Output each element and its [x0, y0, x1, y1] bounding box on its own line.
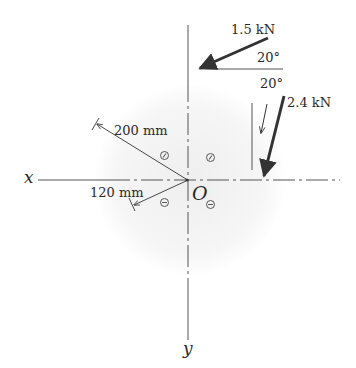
- force-2-magnitude-label: 2.4 kN: [287, 96, 331, 109]
- force-2-4kn-arrow: [252, 96, 284, 176]
- hole-lower-left: [160, 198, 169, 207]
- force-1-magnitude-label: 1.5 kN: [231, 23, 275, 36]
- origin-label: O: [192, 184, 208, 203]
- x-axis-label: x: [24, 169, 34, 186]
- hole-upper-left: [160, 151, 169, 160]
- dimension-120mm-label: 120 mm: [90, 186, 144, 199]
- force-2-angle-label: 20°: [260, 77, 283, 90]
- dimension-200mm-label: 200 mm: [114, 124, 168, 137]
- hole-upper-right: [206, 153, 215, 162]
- origin-point: [185, 178, 188, 181]
- angle-20-pointer: [261, 104, 267, 133]
- force-1-angle-label: 20°: [257, 51, 280, 64]
- diagram-canvas: [0, 0, 356, 368]
- y-axis-label: y: [183, 340, 193, 357]
